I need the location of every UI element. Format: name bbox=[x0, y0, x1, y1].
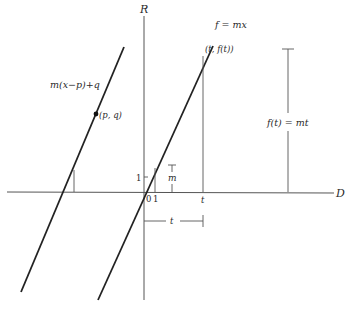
line-f-mx bbox=[98, 46, 213, 300]
height-label: f(t) = mt bbox=[266, 117, 309, 128]
point-tft-label: (t, f(t)) bbox=[205, 44, 234, 54]
point-pq-label: (p, q) bbox=[99, 110, 122, 120]
diagram: R D 0 1 1 f = mx m(x−p)+q (p, q) (t, f(t… bbox=[0, 0, 346, 322]
t-bracket-label: t bbox=[170, 216, 174, 226]
origin-label: 0 bbox=[146, 194, 151, 204]
slope-label: m bbox=[168, 173, 177, 183]
horizontal-axis-label: D bbox=[335, 187, 345, 200]
line-f-mx-label: f = mx bbox=[214, 19, 248, 30]
figure-canvas: R D 0 1 1 f = mx m(x−p)+q (p, q) (t, f(t… bbox=[0, 0, 346, 322]
unit-x-label: 1 bbox=[153, 194, 158, 204]
line-shifted-label: m(x−p)+q bbox=[50, 79, 100, 90]
t-tick-label: t bbox=[201, 195, 205, 205]
point-pq bbox=[94, 112, 99, 117]
vertical-axis-label: R bbox=[139, 3, 148, 16]
horizontal-axis bbox=[7, 192, 334, 193]
unit-y-label: 1 bbox=[136, 173, 141, 183]
